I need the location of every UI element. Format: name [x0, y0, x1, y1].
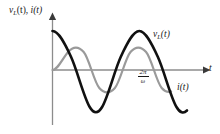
period-numerator: 2π — [132, 69, 154, 76]
voltage-curve-label: vL(t) — [153, 30, 170, 40]
voltage-curve — [53, 31, 188, 113]
y-axis-label-current-symbol: i(t) — [31, 5, 43, 15]
figure-container: vL(t), i(t) vL(t) i(t) t 2π ω — [0, 0, 220, 134]
period-denominator: ω — [132, 78, 154, 84]
x-axis-label: t — [209, 64, 212, 74]
y-axis-arrowhead — [49, 13, 56, 21]
y-axis-label: vL(t), i(t) — [9, 6, 42, 16]
current-curve-label: i(t) — [177, 83, 189, 93]
waveform-plot — [0, 0, 220, 134]
period-annotation: 2π ω — [132, 69, 154, 84]
y-axis-label-voltage-arg: (t), — [17, 5, 31, 15]
voltage-curve-label-arg: (t) — [161, 29, 170, 39]
